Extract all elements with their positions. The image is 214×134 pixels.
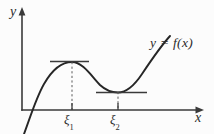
graph-canvas xyxy=(0,0,214,134)
y-axis-arrow-icon xyxy=(19,7,26,16)
xi-1-subscript: 1 xyxy=(70,122,74,132)
y-axis-label: y xyxy=(10,5,16,19)
x-tick-label-xi-1: ξ1 xyxy=(64,113,74,129)
function-graph-figure: y x y = f(x) ξ1 ξ2 xyxy=(0,0,214,134)
x-tick-label-xi-2: ξ2 xyxy=(110,113,120,129)
xi-2-symbol: ξ xyxy=(110,112,116,127)
function-equation-label: y = f(x) xyxy=(150,36,193,50)
xi-1-symbol: ξ xyxy=(64,112,70,127)
x-axis-label: x xyxy=(195,111,201,125)
xi-2-subscript: 2 xyxy=(116,122,120,132)
function-curve xyxy=(24,36,170,134)
